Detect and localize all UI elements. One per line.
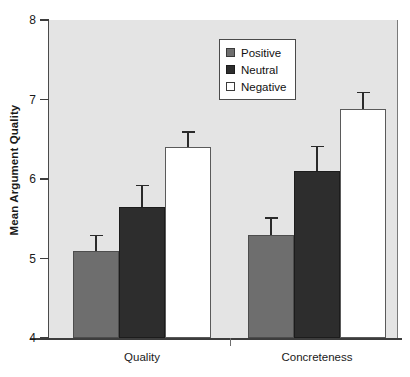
legend-item-label: Negative: [241, 81, 286, 93]
legend-swatch-icon: [226, 48, 235, 57]
y-axis-tick-label: 8: [0, 13, 36, 27]
error-bar-stem: [362, 92, 364, 109]
legend-item-label: Neutral: [241, 64, 278, 76]
bar-concreteness-neutral: [294, 171, 340, 338]
error-bar-quality-negative: [165, 131, 211, 147]
bar-quality-neutral: [119, 207, 165, 338]
y-axis-tick: [40, 178, 49, 180]
bar-concreteness-positive: [248, 235, 294, 338]
legend-item-neutral: Neutral: [226, 61, 286, 78]
y-axis-label: Mean Argument Quality: [2, 0, 26, 340]
x-axis-line: [30, 338, 402, 340]
y-axis-label-text: Mean Argument Quality: [8, 105, 20, 236]
error-bar-cap: [311, 146, 324, 148]
error-bar-stem: [141, 185, 143, 207]
y-axis-tick-label: 4: [0, 331, 36, 345]
error-bar-quality-positive: [73, 235, 119, 251]
y-axis-tick-label: 5: [0, 252, 36, 266]
legend-item-positive: Positive: [226, 44, 286, 61]
legend-swatch-icon: [226, 82, 235, 91]
chart-figure: Mean Argument Quality 45678 QualityConcr…: [0, 0, 410, 377]
y-axis-tick-label: 6: [0, 172, 36, 186]
bar-concreteness-negative: [340, 109, 386, 338]
error-bar-stem: [270, 217, 272, 234]
legend-item-negative: Negative: [226, 78, 286, 95]
y-axis-tick: [40, 337, 49, 339]
chart-legend: PositiveNeutralNegative: [219, 39, 296, 100]
error-bar-cap: [90, 235, 103, 237]
error-bar-stem: [95, 235, 97, 251]
error-bar-stem: [187, 131, 189, 147]
error-bar-cap: [182, 131, 195, 133]
y-axis-tick: [40, 258, 49, 260]
y-axis-tick: [40, 99, 49, 101]
legend-swatch-icon: [226, 65, 235, 74]
error-bar-concreteness-neutral: [294, 146, 340, 171]
error-bar-cap: [136, 185, 149, 187]
error-bar-quality-neutral: [119, 185, 165, 207]
error-bar-stem: [316, 146, 318, 171]
error-bar-cap: [357, 92, 370, 94]
error-bar-concreteness-positive: [248, 217, 294, 234]
x-axis-category-label-quality: Quality: [124, 351, 160, 363]
error-bar-cap: [265, 217, 278, 219]
legend-item-label: Positive: [241, 47, 281, 59]
error-bar-concreteness-negative: [340, 92, 386, 109]
y-axis-tick: [40, 19, 49, 21]
bar-quality-negative: [165, 147, 211, 338]
x-axis-category-label-concreteness: Concreteness: [282, 351, 353, 363]
y-axis-tick-label: 7: [0, 93, 36, 107]
x-axis-tick: [230, 338, 232, 346]
bar-quality-positive: [73, 251, 119, 338]
